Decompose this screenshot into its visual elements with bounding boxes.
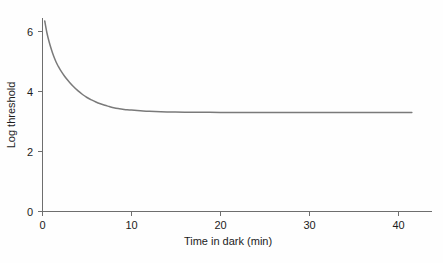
x-tick-label-30: 30 [303, 219, 315, 231]
x-tick-label-10: 10 [125, 219, 137, 231]
line-chart-plot: 6 4 2 0 0 10 20 30 40 Time in dark (min)… [0, 0, 443, 263]
y-axis-tick-labels: 6 4 2 0 [27, 26, 33, 218]
y-tick-label-4: 4 [27, 86, 33, 98]
y-tick-label-0: 0 [27, 206, 33, 218]
dark-adaptation-curve [45, 21, 412, 113]
x-tick-label-20: 20 [214, 219, 226, 231]
y-tick-label-6: 6 [27, 26, 33, 38]
y-axis-ticks [38, 32, 43, 212]
y-axis-title: Log threshold [5, 82, 17, 149]
x-tick-label-0: 0 [39, 219, 45, 231]
chart-figure: 6 4 2 0 0 10 20 30 40 Time in dark (min)… [0, 0, 443, 263]
x-axis-tick-labels: 0 10 20 30 40 [39, 219, 404, 231]
x-axis-ticks [43, 212, 399, 217]
x-tick-label-40: 40 [392, 219, 404, 231]
y-tick-label-2: 2 [27, 146, 33, 158]
x-axis-title: Time in dark (min) [184, 235, 272, 247]
